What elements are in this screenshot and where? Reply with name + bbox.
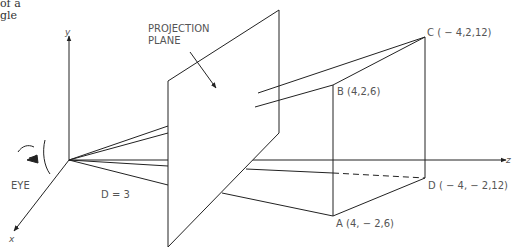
- x-axis: [14, 160, 69, 231]
- page-text-fragment-2: gle: [0, 10, 17, 22]
- distance-label: D = 3: [101, 190, 130, 200]
- eye-label: EYE: [11, 181, 30, 191]
- ray-b-left: [69, 133, 168, 160]
- eye-icon: [18, 140, 50, 174]
- projection-plane: [168, 10, 279, 247]
- edge-bc: [333, 37, 425, 85]
- z-axis-label: z: [506, 156, 511, 165]
- x-axis-label: x: [9, 235, 14, 244]
- ray-d-left: [69, 160, 168, 166]
- point-a-label: A (4, − 2,6): [336, 219, 394, 229]
- y-axis-label: y: [65, 28, 70, 37]
- ray-a-right: [222, 193, 333, 216]
- edge-ad: [333, 178, 425, 216]
- perspective-projection-diagram: of a gle y x z PROJECTION PLANE EYE D = …: [0, 0, 513, 250]
- ray-c-right: [258, 37, 425, 93]
- projection-plane-label-line2: PLANE: [148, 36, 180, 46]
- point-c-label: C ( − 4,2,12): [427, 28, 492, 38]
- ray-c-left: [69, 126, 168, 160]
- ray-a-left: [69, 160, 168, 185]
- point-b-label: B (4,2,6): [337, 87, 380, 97]
- projection-plane-label-line1: PROJECTION: [148, 24, 210, 34]
- ray-d-right: [246, 169, 333, 173]
- point-d-label: D ( − 4, − 2,12): [428, 181, 508, 191]
- hidden-edge-d: [333, 173, 425, 178]
